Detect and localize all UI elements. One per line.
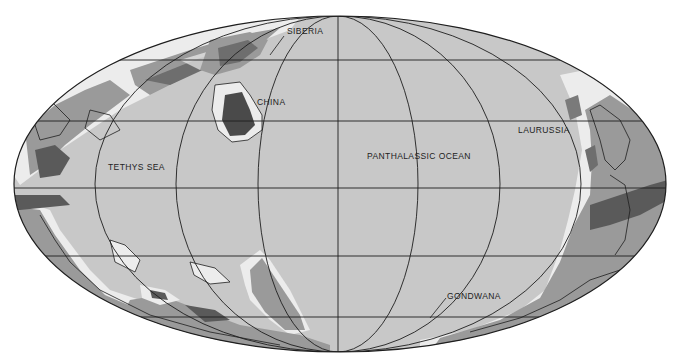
panthalassic-ocean-area xyxy=(0,0,674,364)
label-tethys-sea: TETHYS SEA xyxy=(108,163,165,172)
label-siberia: SIBERIA xyxy=(287,27,323,36)
label-gondwana: GONDWANA xyxy=(447,292,501,301)
label-panthalassic-ocean: PANTHALASSIC OCEAN xyxy=(367,152,471,161)
label-china: CHINA xyxy=(257,98,285,107)
world-map xyxy=(0,0,674,364)
label-laurussia: LAURUSSIA xyxy=(518,126,570,135)
